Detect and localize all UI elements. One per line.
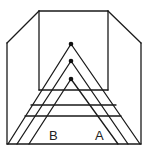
apex-dot-3 xyxy=(69,77,74,82)
label-b: B xyxy=(49,128,58,143)
right-wall-top-edge xyxy=(108,11,141,43)
chevron-lines xyxy=(8,44,140,144)
diagram-canvas: BA xyxy=(0,0,153,155)
left-wall-top-edge xyxy=(7,11,39,43)
room-outline xyxy=(7,11,141,144)
apex-dot-2 xyxy=(69,59,74,64)
apex-dot-1 xyxy=(69,42,74,47)
perspective-room-diagram: BA xyxy=(0,0,153,155)
label-a: A xyxy=(95,128,104,143)
chevron-1 xyxy=(8,44,140,144)
point-labels: BA xyxy=(49,128,104,143)
